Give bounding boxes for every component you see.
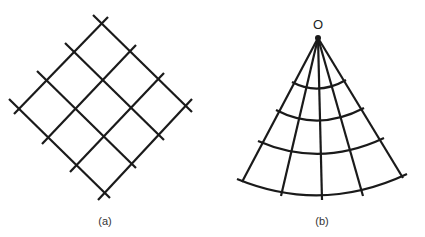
panel-b-label: (b) <box>315 215 328 227</box>
apex-label-o: O <box>313 17 323 32</box>
panel-a-label: (a) <box>98 215 111 227</box>
panel-b-fan <box>237 35 407 200</box>
panel-a-grid <box>9 15 192 200</box>
figure-canvas <box>0 0 425 237</box>
